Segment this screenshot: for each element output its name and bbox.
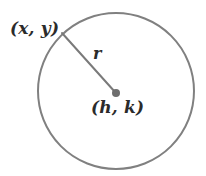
center-point-dot — [112, 89, 120, 97]
center-point-label: (h, k) — [91, 99, 144, 116]
point-on-circle-label: (x, y) — [10, 20, 59, 37]
radius-label: r — [93, 46, 101, 62]
circle-diagram: (x, y) r (h, k) — [0, 0, 206, 176]
